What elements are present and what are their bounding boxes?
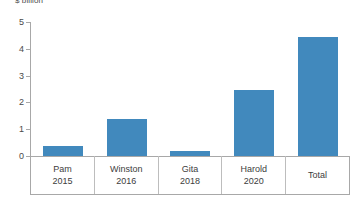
x-axis-year-label: 2018 [180,177,200,186]
x-axis-label-cell: Harold2020 [222,156,286,194]
y-axis-tick-label: 4 [19,44,24,54]
y-axis-tick-label: 5 [19,17,24,27]
bar-cell [95,22,159,156]
bar-chart-figure: $ billion 012345 Pam2015Winston2016Gita2… [0,0,356,207]
bar [107,119,147,156]
bar-cell [159,22,223,156]
x-axis-year-label: 2016 [116,177,136,186]
y-axis-tick-label: 2 [19,97,24,107]
x-axis-label-cell: Gita2018 [159,156,223,194]
y-axis-tick-mark [26,129,30,130]
x-axis-label-cell: Winston2016 [95,156,159,194]
y-axis-tick-label: 0 [19,151,24,161]
x-axis-year-label: 2020 [244,177,264,186]
y-axis-tick-label: 3 [19,71,24,81]
plot-area: 012345 [30,22,350,156]
x-axis-category-label: Pam [53,165,72,174]
y-axis-tick-mark [26,49,30,50]
y-axis-tick-mark [26,22,30,23]
y-axis-title: $ billion [15,0,43,5]
x-axis-label-cell: Pam2015 [31,156,95,194]
x-axis-category-label: Gita [182,165,199,174]
y-axis-tick-mark [26,102,30,103]
bar [234,90,274,156]
bar [43,146,83,156]
bar-cell [286,22,350,156]
x-axis-year-label: 2015 [52,177,72,186]
bar-series [31,22,350,156]
x-axis-category-label: Harold [241,165,268,174]
bar [298,37,338,156]
x-axis-category-label: Total [308,171,327,180]
x-axis-category-label: Winston [110,165,143,174]
bar-cell [222,22,286,156]
y-axis-tick-label: 1 [19,124,24,134]
x-axis-label-table: Pam2015Winston2016Gita2018Harold2020Tota… [30,156,350,195]
bar-cell [31,22,95,156]
x-axis-label-cell: Total [286,156,349,194]
y-axis-tick-mark [26,76,30,77]
